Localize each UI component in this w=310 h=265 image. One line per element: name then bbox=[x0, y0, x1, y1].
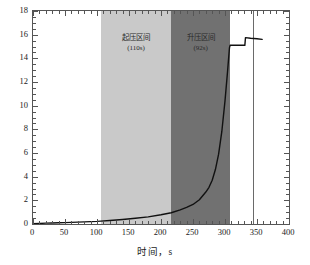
y-tick-label-2: 2 bbox=[8, 194, 28, 204]
x-tick-180 bbox=[148, 221, 149, 224]
x-tick-310 bbox=[231, 221, 232, 224]
x-tick-top-260 bbox=[199, 11, 200, 14]
x-tick-70 bbox=[78, 221, 79, 224]
series-line-1 bbox=[33, 38, 262, 224]
y-tick-label-4: 4 bbox=[8, 171, 28, 181]
x-tick-220 bbox=[174, 221, 175, 224]
x-tick-top-130 bbox=[116, 11, 117, 14]
x-tick-top-310 bbox=[231, 11, 232, 14]
y-tick-15.5 bbox=[33, 41, 36, 42]
y-tick-17.5 bbox=[33, 17, 36, 18]
x-tick-100 bbox=[97, 219, 98, 224]
y-tick-9.5 bbox=[33, 112, 36, 113]
y-tick-16.5 bbox=[33, 29, 36, 30]
y-tick-right-1 bbox=[286, 212, 289, 213]
x-tick-30 bbox=[52, 221, 53, 224]
x-tick-90 bbox=[91, 221, 92, 224]
y-tick-right-9 bbox=[286, 118, 289, 119]
y-tick-3.5 bbox=[33, 183, 36, 184]
x-tick-top-380 bbox=[276, 11, 277, 14]
y-tick-right-3.5 bbox=[286, 183, 289, 184]
x-tick-top-10 bbox=[39, 11, 40, 14]
chart-figure: 起压区间(110s)升压区间(92s) 时间，s 入口压力，MPa 050100… bbox=[0, 0, 310, 265]
y-tick-right-8 bbox=[284, 129, 289, 130]
x-tick-10 bbox=[39, 221, 40, 224]
y-tick-right-13.5 bbox=[286, 64, 289, 65]
x-tick-top-370 bbox=[270, 11, 271, 14]
x-tick-label-400: 400 bbox=[282, 227, 295, 237]
y-tick-right-14 bbox=[284, 58, 289, 59]
x-tick-top-180 bbox=[148, 11, 149, 14]
x-tick-top-150 bbox=[129, 11, 130, 16]
x-tick-top-120 bbox=[110, 11, 111, 14]
x-tick-label-100: 100 bbox=[90, 227, 103, 237]
x-tick-140 bbox=[123, 221, 124, 224]
x-tick-top-330 bbox=[244, 11, 245, 14]
x-tick-370 bbox=[270, 221, 271, 224]
y-tick-right-5 bbox=[286, 165, 289, 166]
y-tick-right-16 bbox=[284, 35, 289, 36]
y-tick-right-6.5 bbox=[286, 147, 289, 148]
x-tick-320 bbox=[238, 221, 239, 224]
x-tick-top-170 bbox=[142, 11, 143, 14]
y-tick-right-16.5 bbox=[286, 29, 289, 30]
y-tick-right-4.5 bbox=[286, 171, 289, 172]
x-tick-top-110 bbox=[103, 11, 104, 14]
y-tick-right-1.5 bbox=[286, 206, 289, 207]
y-tick-label-14: 14 bbox=[8, 52, 28, 62]
y-tick-11 bbox=[33, 94, 36, 95]
y-tick-right-18 bbox=[284, 11, 289, 12]
x-tick-top-60 bbox=[71, 11, 72, 14]
x-tick-top-220 bbox=[174, 11, 175, 14]
y-tick-label-8: 8 bbox=[8, 123, 28, 133]
x-tick-top-350 bbox=[257, 11, 258, 16]
y-tick-14.5 bbox=[33, 52, 36, 53]
x-tick-160 bbox=[135, 221, 136, 224]
x-tick-label-150: 150 bbox=[122, 227, 135, 237]
series-layer bbox=[33, 11, 289, 224]
y-tick-7 bbox=[33, 141, 36, 142]
y-tick-right-15.5 bbox=[286, 41, 289, 42]
x-tick-50 bbox=[65, 219, 66, 224]
x-tick-400 bbox=[289, 219, 290, 224]
y-tick-right-6 bbox=[284, 153, 289, 154]
y-tick-right-4 bbox=[284, 177, 289, 178]
x-tick-110 bbox=[103, 221, 104, 224]
y-tick-6.5 bbox=[33, 147, 36, 148]
x-tick-60 bbox=[71, 221, 72, 224]
y-tick-8 bbox=[33, 129, 38, 130]
x-tick-label-200: 200 bbox=[154, 227, 167, 237]
x-tick-label-250: 250 bbox=[186, 227, 199, 237]
y-tick-15 bbox=[33, 47, 36, 48]
x-tick-top-160 bbox=[135, 11, 136, 14]
y-tick-16 bbox=[33, 35, 38, 36]
y-tick-13.5 bbox=[33, 64, 36, 65]
x-tick-top-50 bbox=[65, 11, 66, 16]
y-tick-right-2 bbox=[284, 200, 289, 201]
plot-area: 起压区间(110s)升压区间(92s) bbox=[32, 10, 290, 225]
x-tick-top-300 bbox=[225, 11, 226, 16]
y-tick-0.5 bbox=[33, 218, 36, 219]
y-tick-2 bbox=[33, 200, 38, 201]
x-tick-top-320 bbox=[238, 11, 239, 14]
y-tick-17 bbox=[33, 23, 36, 24]
y-tick-label-12: 12 bbox=[8, 76, 28, 86]
x-tick-300 bbox=[225, 219, 226, 224]
x-tick-label-0: 0 bbox=[30, 227, 34, 237]
x-tick-top-230 bbox=[180, 11, 181, 14]
y-tick-right-0 bbox=[284, 224, 289, 225]
x-tick-150 bbox=[129, 219, 130, 224]
x-tick-top-80 bbox=[84, 11, 85, 14]
x-tick-top-400 bbox=[289, 11, 290, 16]
x-tick-top-20 bbox=[46, 11, 47, 14]
x-tick-330 bbox=[244, 221, 245, 224]
x-tick-170 bbox=[142, 221, 143, 224]
y-tick-label-6: 6 bbox=[8, 147, 28, 157]
y-tick-right-12 bbox=[284, 82, 289, 83]
x-tick-380 bbox=[276, 221, 277, 224]
x-tick-top-200 bbox=[161, 11, 162, 16]
y-tick-right-3 bbox=[286, 189, 289, 190]
y-tick-right-8.5 bbox=[286, 123, 289, 124]
x-tick-210 bbox=[167, 221, 168, 224]
x-tick-270 bbox=[206, 221, 207, 224]
